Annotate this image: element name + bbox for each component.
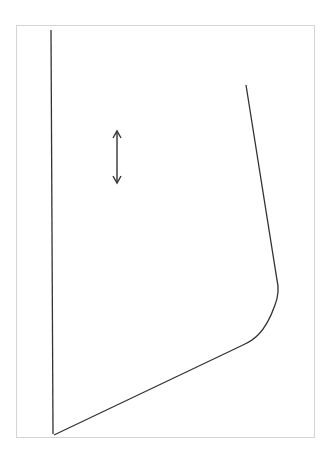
left-vertical-line <box>51 30 53 434</box>
line-drawing <box>0 0 331 457</box>
double-arrow-icon <box>113 131 121 183</box>
tapered-outline <box>54 85 278 435</box>
